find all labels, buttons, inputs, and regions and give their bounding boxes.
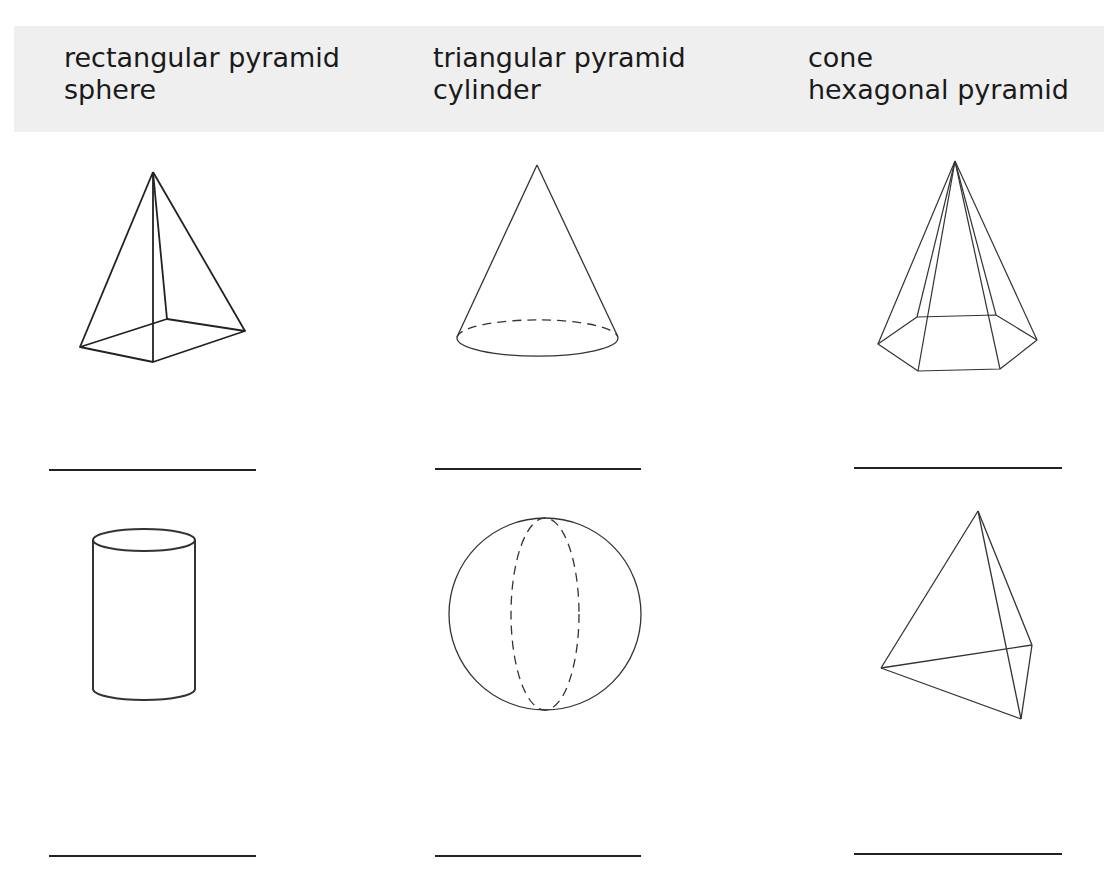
- answer-line-hexagonal-pyramid[interactable]: [854, 467, 1062, 469]
- cone-figure: [457, 165, 618, 356]
- triangular-pyramid-figure: [881, 511, 1032, 719]
- answer-line-triangular-pyramid[interactable]: [854, 853, 1062, 855]
- rectangular-pyramid-figure: [80, 172, 245, 362]
- answer-line-cylinder[interactable]: [49, 855, 256, 857]
- cylinder-figure: [93, 529, 195, 700]
- sphere-figure: [449, 518, 641, 710]
- answer-line-cone[interactable]: [435, 468, 641, 470]
- answer-line-sphere[interactable]: [435, 855, 641, 857]
- answer-line-rectangular-pyramid[interactable]: [49, 469, 256, 471]
- shapes-canvas: [0, 0, 1104, 871]
- hexagonal-pyramid-figure: [878, 161, 1037, 371]
